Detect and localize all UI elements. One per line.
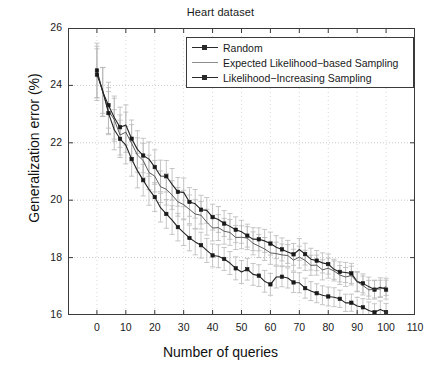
- legend: Random Expected Likelihood−based Samplin…: [186, 37, 414, 88]
- x-tick-label: 40: [199, 321, 227, 333]
- y-tick-label: 18: [36, 251, 62, 263]
- legend-swatch-line-marker-icon: [191, 42, 219, 53]
- y-tick-label: 26: [36, 21, 62, 33]
- x-tick-label: 0: [83, 321, 111, 333]
- legend-label: Expected Likelihood−based Sampling: [219, 57, 398, 69]
- legend-item-random: Random: [187, 40, 413, 55]
- x-axis-label: Number of queries: [0, 344, 441, 360]
- legend-item-likelihood-increasing-sampling: Likelihood−Increasing Sampling: [187, 70, 413, 85]
- legend-item-expected-likelihood-based-sampling: Expected Likelihood−based Sampling: [187, 55, 413, 70]
- x-tick-label: 100: [372, 321, 400, 333]
- chart-title: Heart dataset: [0, 6, 441, 18]
- y-tick-label: 16: [36, 308, 62, 320]
- x-tick-label: 20: [141, 321, 169, 333]
- legend-label: Random: [219, 42, 263, 54]
- legend-swatch-line-icon: [191, 57, 219, 68]
- y-tick-label: 20: [36, 193, 62, 205]
- y-tick-label: 22: [36, 136, 62, 148]
- legend-swatch-line-marker-icon: [191, 72, 219, 83]
- x-tick-label: 110: [401, 321, 429, 333]
- x-tick-label: 30: [170, 321, 198, 333]
- chart-figure: Heart dataset Generalization error (%) N…: [0, 0, 441, 376]
- x-tick-label: 50: [228, 321, 256, 333]
- y-tick-label: 24: [36, 78, 62, 90]
- x-tick-label: 90: [343, 321, 371, 333]
- x-tick-label: 60: [256, 321, 284, 333]
- y-axis-label: Generalization error (%): [26, 18, 42, 278]
- x-tick-label: 80: [314, 321, 342, 333]
- x-tick-label: 70: [285, 321, 313, 333]
- x-tick-label: 10: [112, 321, 140, 333]
- legend-label: Likelihood−Increasing Sampling: [219, 72, 372, 84]
